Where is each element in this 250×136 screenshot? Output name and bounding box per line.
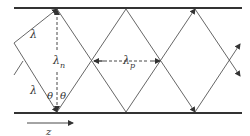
waveguide-diagram: λ λ λ n λ p θ θ z: [0, 0, 250, 136]
theta-left-label: θ: [47, 90, 53, 101]
lambda-p-label: λ: [122, 54, 130, 67]
lambda-n-label: λ: [52, 54, 60, 67]
lambda-p-subscript: p: [130, 61, 135, 70]
lambda-upper-label: λ: [29, 28, 37, 41]
lambda-lower-label: λ: [29, 84, 37, 97]
lambda-n-subscript: n: [60, 61, 65, 70]
z-axis-label: z: [45, 126, 52, 136]
theta-right-label: θ: [60, 90, 66, 101]
